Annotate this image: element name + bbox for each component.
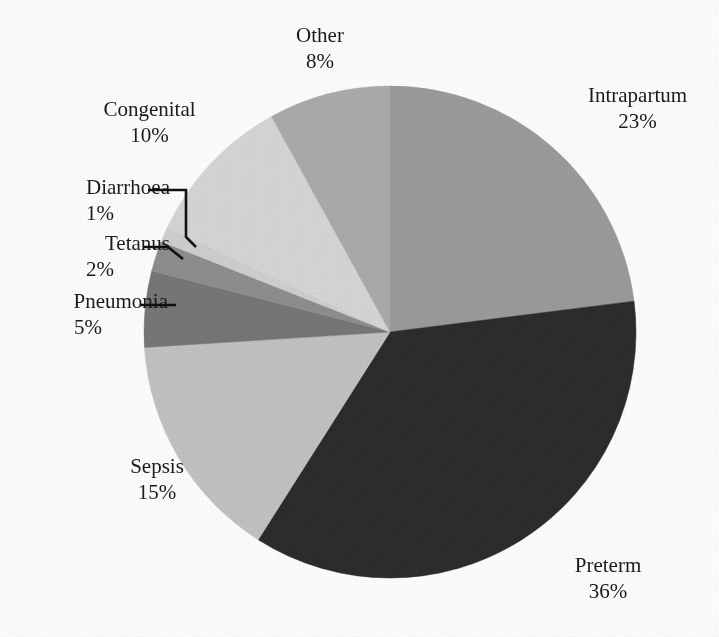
slice-label-tetanus: Tetanus 2% — [30, 230, 170, 282]
slice-label-tetanus-percent: 2% — [30, 256, 170, 282]
slice-label-congenital: Congenital 10% — [62, 96, 237, 148]
slice-label-intrapartum-percent: 23% — [560, 108, 715, 134]
slice-label-other: Other 8% — [235, 22, 405, 74]
slice-label-sepsis-percent: 15% — [82, 479, 232, 505]
slice-label-congenital-name: Congenital — [62, 96, 237, 122]
slice-label-diarrhoea-name: Diarrhoea — [30, 174, 170, 200]
slice-label-pneumonia-percent: 5% — [8, 314, 168, 340]
slice-label-other-name: Other — [235, 22, 405, 48]
slice-label-sepsis: Sepsis 15% — [82, 453, 232, 505]
pie-chart-figure: Other 8% Intrapartum 23% Congenital 10% … — [0, 0, 719, 637]
slice-label-other-percent: 8% — [235, 48, 405, 74]
cropped-running-title — [0, 0, 719, 2]
slice-label-diarrhoea-percent: 1% — [30, 200, 170, 226]
slice-label-tetanus-name: Tetanus — [30, 230, 170, 256]
slice-label-intrapartum: Intrapartum 23% — [560, 82, 715, 134]
slice-label-sepsis-name: Sepsis — [82, 453, 232, 479]
slice-label-intrapartum-name: Intrapartum — [560, 82, 715, 108]
slice-label-diarrhoea: Diarrhoea 1% — [30, 174, 170, 226]
slice-label-pneumonia-name: Pneumonia — [8, 288, 168, 314]
slice-label-preterm-name: Preterm — [528, 552, 688, 578]
slice-label-congenital-percent: 10% — [62, 122, 237, 148]
slice-label-pneumonia: Pneumonia 5% — [8, 288, 168, 340]
slice-label-preterm: Preterm 36% — [528, 552, 688, 604]
slice-label-preterm-percent: 36% — [528, 578, 688, 604]
